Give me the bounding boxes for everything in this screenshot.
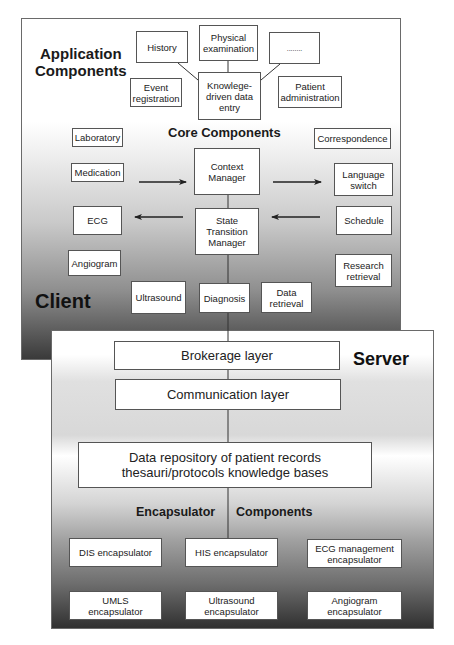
- event-registration-label: Event registration: [131, 82, 181, 104]
- data-repository-box: Data repository of patient records thesa…: [78, 442, 372, 488]
- angiogram-encapsulator-label: Angiogram encapsulator: [308, 595, 401, 617]
- brokerage-layer-box: Brokerage layer: [114, 341, 340, 370]
- umls-encapsulator-box: UMLS encapsulator: [69, 591, 162, 620]
- encapsulator-heading-right: Components: [236, 505, 312, 519]
- dis-encapsulator-box: DIS encapsulator: [69, 538, 162, 567]
- ultrasound-label: Ultrasound: [136, 292, 182, 303]
- history-label: History: [147, 42, 177, 53]
- angiogram-label: Angiogram: [72, 258, 118, 269]
- core-components-heading: Core Components: [168, 125, 281, 140]
- ecg-management-encapsulator-box: ECG management encapsulator: [307, 539, 402, 568]
- ellipsis-label: ........: [287, 43, 303, 54]
- application-heading-line1: Application: [35, 45, 127, 62]
- diagnosis-label: Diagnosis: [204, 293, 246, 304]
- research-retrieval-label: Research retrieval: [335, 260, 392, 282]
- brokerage-layer-label: Brokerage layer: [181, 348, 273, 363]
- application-components-heading: Application Components: [35, 45, 127, 79]
- physical-examination-label: Physical examination: [200, 32, 257, 54]
- state-transition-manager-label: State Transition Manager: [196, 215, 258, 248]
- diagnosis-box: Diagnosis: [199, 283, 250, 313]
- angiogram-box: Angiogram: [68, 250, 121, 276]
- encapsulator-heading-left: Encapsulator: [136, 505, 215, 519]
- application-heading-line2: Components: [35, 62, 127, 79]
- client-label: Client: [35, 290, 91, 313]
- knowledge-driven-data-entry-label: Knowlege-driven data entry: [199, 80, 260, 113]
- communication-layer-box: Communication layer: [115, 379, 341, 410]
- patient-administration-box: Patient administration: [278, 76, 342, 108]
- ultrasound-box: Ultrasound: [131, 281, 186, 314]
- language-switch-box: Language switch: [334, 163, 393, 196]
- umls-encapsulator-label: UMLS encapsulator: [70, 595, 161, 617]
- language-switch-label: Language switch: [334, 169, 392, 191]
- event-registration-box: Event registration: [130, 78, 182, 107]
- ultrasound-encapsulator-label: Ultrasound encapsulator: [186, 595, 277, 617]
- state-transition-manager-box: State Transition Manager: [195, 208, 259, 255]
- patient-administration-label: Patient administration: [279, 81, 341, 103]
- data-retrieval-box: Data retrieval: [261, 282, 312, 313]
- data-retrieval-label: Data retrieval: [262, 287, 312, 309]
- laboratory-box: Laboratory: [72, 128, 123, 147]
- laboratory-label: Laboratory: [75, 132, 120, 143]
- physical-examination-box: Physical examination: [199, 25, 258, 61]
- knowledge-driven-data-entry-box: Knowlege-driven data entry: [198, 72, 261, 120]
- communication-layer-label: Communication layer: [167, 387, 289, 402]
- medication-box: Medication: [71, 163, 124, 182]
- correspondence-label: Correspondence: [317, 133, 387, 144]
- data-repository-line2: thesauri/protocols knowledge bases: [122, 465, 329, 480]
- research-retrieval-box: Research retrieval: [335, 254, 392, 287]
- server-label: Server: [353, 349, 409, 370]
- dis-encapsulator-label: DIS encapsulator: [79, 547, 152, 558]
- data-repository-line1: Data repository of patient records: [129, 450, 321, 465]
- context-manager-label: Context Manager: [195, 161, 259, 183]
- correspondence-box: Correspondence: [314, 128, 391, 149]
- ultrasound-encapsulator-box: Ultrasound encapsulator: [185, 591, 278, 620]
- his-encapsulator-label: HIS encapsulator: [195, 547, 268, 558]
- ellipsis-box: ........: [269, 32, 320, 64]
- medication-label: Medication: [75, 167, 121, 178]
- history-box: History: [136, 31, 188, 63]
- ecg-management-encapsulator-label: ECG management encapsulator: [308, 543, 401, 565]
- ecg-box: ECG: [73, 206, 122, 235]
- ecg-label: ECG: [87, 215, 108, 226]
- schedule-label: Schedule: [344, 215, 384, 226]
- schedule-box: Schedule: [336, 206, 392, 235]
- his-encapsulator-box: HIS encapsulator: [185, 538, 278, 567]
- angiogram-encapsulator-box: Angiogram encapsulator: [307, 591, 402, 620]
- context-manager-box: Context Manager: [194, 148, 260, 195]
